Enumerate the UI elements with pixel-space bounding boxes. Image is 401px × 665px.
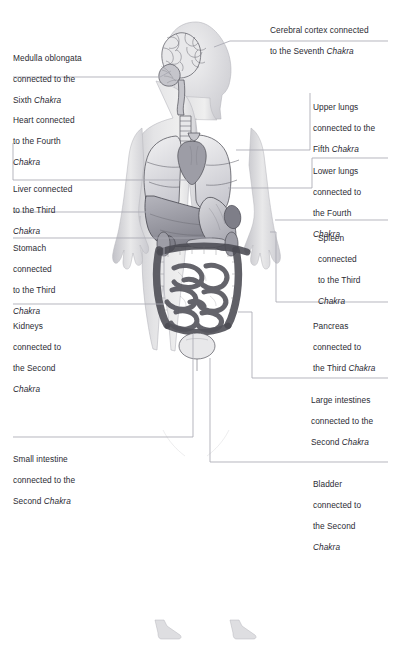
callout-kidneys: Kidneys connected to the Second Chakra: [13, 310, 129, 405]
callout-pancreas: Pancreas connected to the Third Chakra: [313, 310, 401, 384]
callout-line: connected to: [13, 342, 129, 353]
callout-line: to the Third: [13, 285, 129, 296]
spleen-organ: [224, 205, 241, 228]
callout-line: Chakra: [318, 296, 400, 307]
callout-line: connected to the: [313, 123, 399, 134]
callout-large-intestines: Large intestines connected to the Second…: [311, 384, 401, 458]
callout-text: Second: [311, 437, 342, 447]
callout-small-intestine: Small intestine connected to the Second …: [13, 443, 137, 517]
callout-line: to the Third: [318, 275, 400, 286]
callout-line: Upper lungs: [313, 102, 399, 113]
callout-line: the Second: [13, 363, 129, 374]
callout-cerebral-cortex: Cerebral cortex connected to the Seventh…: [270, 14, 398, 67]
callout-line: connected to: [313, 187, 399, 198]
leader-upper-lungs: [236, 93, 310, 150]
callout-line: Lower lungs: [313, 166, 399, 177]
callout-heart: Heart connected to the Fourth Chakra: [13, 104, 129, 178]
callout-line: Medulla oblongata: [13, 53, 129, 64]
callout-line: connected to the: [13, 475, 137, 486]
callout-line: Pancreas: [313, 321, 401, 332]
chakra-word: Chakra: [348, 363, 375, 373]
chakra-word: Chakra: [313, 542, 340, 552]
callout-line: Fifth Chakra: [313, 144, 399, 155]
right-arm-shape: [244, 128, 280, 269]
chakra-word: Chakra: [318, 296, 345, 306]
callout-line: Small intestine: [13, 454, 137, 465]
callout-line: Liver connected: [13, 184, 129, 195]
callout-line: connected to the: [311, 416, 401, 427]
callout-text: Fifth: [313, 144, 332, 154]
right-foot-shape: [230, 620, 256, 639]
callout-line: Cerebral cortex connected: [270, 25, 398, 36]
chakra-word: Chakra: [13, 157, 40, 167]
callout-line: the Second: [313, 521, 399, 532]
chakra-word: Chakra: [327, 46, 354, 56]
callout-spleen: Spleen connected to the Third Chakra: [318, 222, 400, 317]
callout-line: Stomach: [13, 243, 129, 254]
callout-line: Bladder: [313, 479, 399, 490]
callout-line: Heart connected: [13, 115, 129, 126]
callout-text: Second: [13, 496, 44, 506]
callout-line: connected to the: [13, 74, 129, 85]
callout-line: Spleen: [318, 233, 400, 244]
callout-line: to the Third: [13, 205, 129, 216]
callout-line: Chakra: [13, 157, 129, 168]
callout-text: the Third: [313, 363, 348, 373]
callout-line: Chakra: [13, 384, 129, 395]
callout-line: to the Fourth: [13, 136, 129, 147]
callout-line: Large intestines: [311, 395, 401, 406]
callout-line: connected to: [313, 500, 399, 511]
chakra-word: Chakra: [13, 384, 40, 394]
callout-text: to the Seventh: [270, 46, 327, 56]
left-foot-shape: [155, 620, 181, 639]
callout-line: to the Seventh Chakra: [270, 46, 398, 57]
callout-line: Kidneys: [13, 321, 129, 332]
callout-line: connected to: [313, 342, 401, 353]
chakra-word: Chakra: [342, 437, 369, 447]
callout-line: the Fourth: [313, 208, 399, 219]
callout-line: connected: [13, 264, 129, 275]
chakra-word: Chakra: [332, 144, 359, 154]
callout-line: Second Chakra: [311, 437, 401, 448]
callout-line: Chakra: [313, 542, 399, 553]
callout-line: the Third Chakra: [313, 363, 401, 374]
chakra-word: Chakra: [44, 496, 71, 506]
callout-line: connected: [318, 254, 400, 265]
callout-line: Second Chakra: [13, 496, 137, 507]
callout-bladder: Bladder connected to the Second Chakra: [313, 468, 399, 563]
